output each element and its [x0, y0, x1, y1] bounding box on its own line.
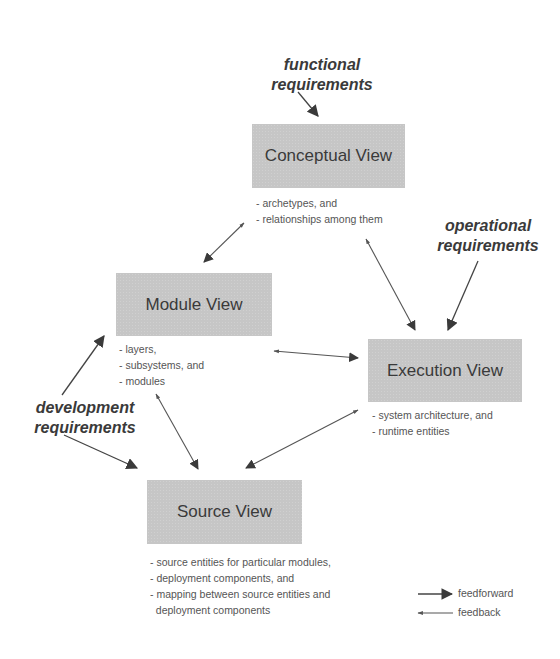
note: - layers, [119, 341, 204, 357]
execution-view-box: Execution View [368, 339, 522, 402]
req-line: requirements [20, 418, 150, 438]
note: - modules [119, 373, 204, 389]
note: - subsystems, and [119, 357, 204, 373]
module-source-arrow [156, 394, 198, 469]
note: - mapping between source entities and [150, 586, 331, 602]
operational-req-arrow [448, 261, 478, 330]
module-execution-arrow [274, 351, 358, 358]
execution-view-title: Execution View [387, 361, 503, 381]
note: - runtime entities [372, 423, 493, 439]
development-source-arrow [64, 435, 137, 468]
note: - source entities for particular modules… [150, 554, 331, 570]
execution-source-arrow [246, 410, 358, 468]
req-line: requirements [428, 236, 548, 256]
development-requirements-label: development requirements [20, 398, 150, 438]
source-view-box: Source View [147, 480, 302, 544]
conceptual-view-notes: - archetypes, and - relationships among … [256, 195, 383, 227]
conceptual-view-title: Conceptual View [265, 146, 392, 166]
req-line: development [20, 398, 150, 418]
note: - archetypes, and [256, 195, 383, 211]
module-view-box: Module View [116, 273, 272, 336]
conceptual-execution-arrow [366, 239, 415, 330]
source-view-notes: - source entities for particular modules… [150, 554, 331, 618]
req-line: operational [428, 216, 548, 236]
note: - deployment components, and [150, 570, 331, 586]
functional-req-arrow [298, 92, 318, 116]
legend-feedforward-label: feedforward [458, 587, 513, 599]
note: deployment components [150, 602, 331, 618]
module-view-notes: - layers, - subsystems, and - modules [119, 341, 204, 389]
execution-view-notes: - system architecture, and - runtime ent… [372, 407, 493, 439]
conceptual-module-arrow [204, 223, 244, 262]
req-line: requirements [262, 75, 382, 95]
legend-feedback-label: feedback [458, 606, 501, 618]
req-line: functional [262, 55, 382, 75]
functional-requirements-label: functional requirements [262, 55, 382, 95]
note: - system architecture, and [372, 407, 493, 423]
note: - relationships among them [256, 211, 383, 227]
source-view-title: Source View [177, 502, 272, 522]
module-view-title: Module View [145, 295, 242, 315]
development-module-arrow [62, 336, 104, 395]
conceptual-view-box: Conceptual View [252, 124, 405, 188]
operational-requirements-label: operational requirements [428, 216, 548, 256]
